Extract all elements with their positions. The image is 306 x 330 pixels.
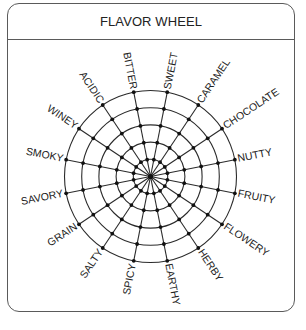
flavor-label-savory: SAVORY [20,187,64,207]
wheel-node-dot [132,259,136,263]
wheel-node-dot [145,158,149,162]
flavor-label-spicy: SPICY [120,262,138,295]
wheel-node-dot [158,189,162,193]
wheel-node-dot [139,225,143,229]
wheel-node-dot [115,181,119,185]
flavor-label-chocolate: CHOCOLATE [220,85,280,131]
wheel-node-dot [182,168,186,172]
wheel-node-dot [129,146,133,150]
wheel-node-dot [139,189,143,193]
wheel-node-dot [77,222,81,226]
flavor-label-sweet: SWEET [161,51,180,91]
wheel-node-dot [120,132,124,136]
wheel-node-dot [142,208,146,212]
wheel-node-dot [162,242,166,246]
wheel-node-dot [145,191,149,195]
wheel-node-dot [98,185,102,189]
flavor-label-herby: HERBY [196,246,226,283]
wheel-node-dot [192,203,196,207]
wheel-node-dot [81,161,85,165]
wheel-node-dot [101,103,105,107]
wheel-node-dot [177,194,181,198]
flavor-label-flowery: FLOWERY [222,220,272,259]
flavor-label-nutty: NUTTY [236,145,273,164]
wheel-node-dot [192,146,196,150]
wheel-node-dot [81,188,85,192]
wheel-node-dot [132,90,136,94]
wheel-node-dot [165,90,169,94]
wheel-node-dot [177,155,181,159]
wheel-node-dot [163,165,167,169]
wheel-node-dot [159,225,163,229]
wheel-center-dot [148,174,153,179]
wheel-node-dot [199,165,203,169]
wheel-node-dot [177,218,181,222]
wheel-node-dot [129,203,133,207]
flavor-label-winey: WINEY [45,102,80,131]
wheel-node-dot [220,127,224,131]
wheel-node-dot [152,191,156,195]
wheel-node-dot [91,213,95,217]
wheel-node-dot [163,184,167,188]
wheel-node-dot [132,178,136,182]
flavor-label-fruity: FRUITY [237,187,277,206]
wheel-node-dot [162,107,166,111]
wheel-node-dot [120,194,124,198]
flavor-label-grain: GRAIN [45,220,79,248]
wheel-node-dot [139,124,143,128]
wheel-node-dot [110,232,114,236]
wheel-node-dot [135,107,139,111]
wheel-node-dot [155,141,159,145]
wheel-node-dot [91,136,95,140]
wheel-node-dot [106,203,110,207]
wheel-node-dot [168,203,172,207]
wheel-node-dot [187,117,191,121]
wheel-node-dot [216,188,220,192]
wheel-node-dot [110,117,114,121]
wheel-node-dot [142,141,146,145]
wheel-node-dot [135,242,139,246]
wheel-node-dot [177,132,181,136]
wheel-node-dot [196,246,200,250]
wheel-node-dot [165,259,169,263]
wheel-node-dot [64,158,68,162]
flavor-label-salty: SALTY [77,246,105,280]
wheel-node-dot [168,146,172,150]
wheel-node-dot [165,171,169,175]
wheel-node-dot [199,185,203,189]
wheel-node-dot [220,222,224,226]
wheel-node-dot [132,171,136,175]
wheel-node-dot [196,103,200,107]
wheel-node-dot [206,213,210,217]
wheel-node-dot [155,208,159,212]
flavor-label-earthy: EARTHY [163,262,183,306]
wheel-node-dot [134,165,138,169]
wheel-node-dot [98,165,102,169]
flavor-label-caramel: CARAMEL [194,56,232,105]
wheel-node-dot [216,161,220,165]
flavor-label-smoky: SMOKY [25,145,65,164]
wheel-node-dot [233,191,237,195]
wheel-node-dot [139,160,143,164]
wheel-node-dot [120,155,124,159]
wheel-node-dot [134,184,138,188]
flavor-label-acidic: ACIDIC [77,69,107,106]
wheel-node-dot [152,158,156,162]
wheel-node-dot [206,136,210,140]
wheel-node-dot [115,168,119,172]
wheel-node-dot [182,181,186,185]
wheel-node-dot [106,146,110,150]
wheel-node-dot [233,158,237,162]
flavor-label-bitter: BITTER [121,51,140,90]
wheel-node-dot [158,160,162,164]
wheel-node-dot [159,124,163,128]
wheel-node-dot [101,246,105,250]
wheel-node-dot [165,178,169,182]
wheel-node-dot [120,218,124,222]
wheel-node-dot [187,232,191,236]
wheel-node-dot [77,127,81,131]
flavor-wheel: NUTTYFRUITYFLOWERYHERBYEARTHYSPICYSALTYG… [0,0,306,330]
wheel-node-dot [64,191,68,195]
